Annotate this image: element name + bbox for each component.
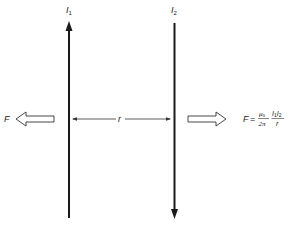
wire-2: I2 bbox=[171, 5, 178, 219]
wire-1-label: I1 bbox=[66, 5, 73, 16]
dimension-arrow-right-icon bbox=[166, 117, 171, 120]
hollow-arrow-right-icon bbox=[188, 112, 226, 126]
hollow-arrow-left-icon bbox=[16, 112, 54, 126]
force-left-label: F bbox=[4, 114, 10, 124]
dimension-arrow-left-icon bbox=[72, 117, 77, 120]
separation-dimension: r bbox=[72, 114, 171, 124]
formula-equals: = bbox=[250, 114, 255, 124]
wire-2-label: I2 bbox=[171, 5, 178, 16]
up-arrowhead-icon bbox=[66, 21, 73, 31]
force-right bbox=[188, 112, 226, 126]
formula-frac2-denominator: r bbox=[276, 120, 279, 127]
force-formula: F = μ0 2π I1I2 r bbox=[243, 110, 284, 128]
formula-frac1-numerator: μ0 bbox=[259, 110, 266, 118]
wire-1: I1 bbox=[66, 5, 73, 218]
diagram-canvas: I1 I2 r F F = μ0 2π I1I2 r bbox=[0, 0, 293, 228]
formula-frac1-denominator: 2π bbox=[259, 120, 267, 128]
formula-frac2-numerator: I1I2 bbox=[272, 110, 282, 118]
formula-lhs: F bbox=[243, 114, 249, 124]
force-left: F bbox=[4, 112, 54, 126]
separation-label: r bbox=[118, 114, 122, 124]
down-arrowhead-icon bbox=[171, 209, 178, 219]
